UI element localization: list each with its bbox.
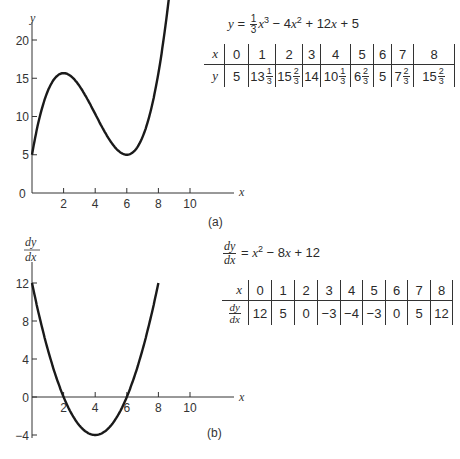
table-b-x-cell: 1 [272, 280, 295, 301]
x-tick-label: 2 [60, 197, 67, 211]
table-b-x-cell: 8 [431, 280, 453, 301]
table-b-dydx-cell: −3 [363, 301, 386, 326]
table-a-x-row: x 012345678 [204, 44, 455, 65]
table-b-dydx-cell: 5 [408, 301, 431, 326]
equation-a-term4: + 5 [337, 16, 359, 31]
table-b-header-num: dy [230, 301, 240, 313]
table-b-x-cell: 4 [341, 280, 363, 301]
table-a-y-header: y [204, 65, 225, 88]
equation-a-fraction: 1 3 [250, 14, 258, 35]
table-a-x-header: x [204, 44, 225, 65]
table-a-y-cell: 1013 [321, 65, 351, 88]
whole-part: 5 [233, 69, 240, 84]
equation-b-equals: = [241, 245, 249, 260]
table-a-y-row: y 51313152314101362357231523 [204, 65, 455, 88]
whole-part: 14 [304, 69, 318, 84]
whole-part: 7 [394, 69, 401, 84]
equation-a-equals: = [237, 16, 245, 31]
table-a-y-cell: 623 [351, 65, 374, 88]
table-b-x-cell: 6 [386, 280, 408, 301]
table-b-dydx-cell: 0 [295, 301, 318, 326]
x-tick-label: 8 [155, 401, 162, 415]
table-b-dydx-cell: 5 [272, 301, 295, 326]
equation-a-term3: + 12 [302, 16, 331, 31]
table-b-x-cell: 7 [408, 280, 431, 301]
chart-a: 5101520 246810 y x 0 (a) [16, 0, 245, 229]
equation-b: dy dx = x2 − 8x + 12 [222, 240, 320, 267]
equation-b-term3: + 12 [291, 245, 320, 260]
fraction-part: 23 [293, 67, 300, 86]
equation-a-lhs: y [228, 16, 234, 31]
table-a-y-cell: 1523 [276, 65, 303, 88]
table-b-x-header: x [222, 280, 249, 301]
table-b-x-cell: 3 [318, 280, 341, 301]
equation-b-lhs: dy dx [223, 240, 236, 267]
x-tick-label: 4 [92, 401, 99, 415]
chart-a-curve [32, 0, 174, 155]
chart-a-caption: (a) [208, 215, 223, 229]
equation-b-term2: − 8 [263, 245, 285, 260]
table-b-dydx-cell: −3 [318, 301, 341, 326]
fraction-part: 13 [266, 67, 273, 86]
table-b-x-row: x 012345678 [222, 280, 453, 301]
table-b-dydx-header: dy dx [222, 301, 249, 326]
whole-part: 5 [379, 69, 386, 84]
values-table-a: x 012345678 y 51313152314101362357231523 [204, 44, 455, 87]
chart-b: −404812 246810 dy dx x (b) [15, 235, 245, 443]
whole-part: 6 [354, 69, 361, 84]
fraction-part: 23 [362, 67, 369, 86]
values-table-b: x 012345678 dy dx 1250−3−4−30512 [222, 280, 453, 325]
whole-part: 15 [277, 69, 291, 84]
y-tick-label: 20 [16, 34, 30, 48]
y-tick-label: 5 [22, 148, 29, 162]
x-tick-label: 10 [183, 197, 197, 211]
table-a-x-cell: 0 [225, 44, 249, 65]
table-a-x-cell: 1 [249, 44, 276, 65]
table-b-x-cell: 2 [295, 280, 318, 301]
y-tick-label: 4 [22, 353, 29, 367]
y-tick-label: 10 [16, 110, 30, 124]
y-tick-label: 12 [16, 277, 30, 291]
equation-a: y = 1 3 x3 − 4x2 + 12x + 5 [228, 14, 359, 35]
table-a-y-cell: 5 [225, 65, 249, 88]
equation-a-term2: − 4 [269, 16, 291, 31]
table-a-x-cell: 5 [351, 44, 374, 65]
table-a-y-cell: 14 [303, 65, 321, 88]
equation-b-lhs-num: dy [224, 239, 235, 253]
table-a-x-cell: 4 [321, 44, 351, 65]
x-tick-label: 10 [183, 401, 197, 415]
whole-part: 15 [422, 69, 436, 84]
chart-a-origin-label: 0 [19, 187, 26, 201]
table-a-y-cell: 1313 [249, 65, 276, 88]
table-b-dydx-row: dy dx 1250−3−4−30512 [222, 301, 453, 326]
table-b-dydx-cell: −4 [341, 301, 363, 326]
fraction-part: 23 [438, 67, 445, 86]
y-tick-label: 0 [22, 391, 29, 405]
chart-a-x-axis-label: x [238, 185, 245, 199]
fraction-denominator: 3 [250, 25, 258, 35]
table-b-dydx-cell: 12 [249, 301, 272, 326]
table-a-x-cell: 7 [392, 44, 414, 65]
equation-b-lhs-den: dx [224, 253, 235, 267]
x-tick-label: 8 [155, 197, 162, 211]
whole-part: 10 [324, 69, 338, 84]
whole-part: 13 [250, 69, 264, 84]
y-tick-label: −4 [15, 429, 29, 443]
table-b-x-cell: 5 [363, 280, 386, 301]
chart-b-caption: (b) [207, 426, 222, 440]
table-a-y-cell: 723 [392, 65, 414, 88]
table-a-y-cell: 1523 [414, 65, 455, 88]
chart-b-y-label-den: dx [25, 250, 37, 264]
y-tick-label: 15 [16, 72, 30, 86]
fraction-part: 13 [339, 67, 346, 86]
chart-b-y-label-num: dy [25, 235, 37, 249]
x-tick-label: 6 [123, 197, 130, 211]
table-a-y-cell: 5 [374, 65, 392, 88]
table-a-x-cell: 6 [374, 44, 392, 65]
table-b-dydx-cell: 12 [431, 301, 453, 326]
fraction-part: 23 [403, 67, 410, 86]
table-b-dydx-cell: 0 [386, 301, 408, 326]
table-a-x-cell: 8 [414, 44, 455, 65]
x-tick-label: 4 [92, 197, 99, 211]
y-tick-label: 8 [22, 315, 29, 329]
